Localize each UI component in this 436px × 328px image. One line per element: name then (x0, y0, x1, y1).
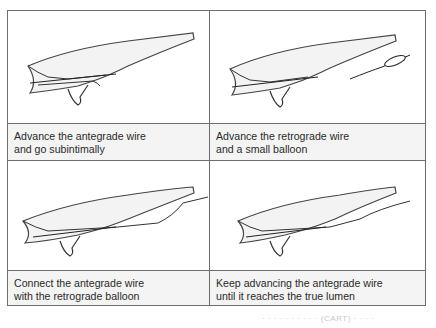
caption-line: Keep advancing the antegrade wire (216, 277, 425, 290)
caption-line: until it reaches the true lumen (216, 290, 425, 303)
panel-3-illustration (8, 161, 210, 270)
figure-grid: Advance the antegrade wire and go subint… (7, 10, 426, 306)
panel-2-illustration (210, 11, 425, 123)
vessel-illustration-icon (210, 11, 427, 123)
panel-4-illustration (210, 161, 425, 270)
vessel-illustration-icon (210, 161, 427, 270)
caption-line: Advance the antegrade wire (14, 130, 209, 143)
caption-line: Connect the antegrade wire (14, 277, 209, 290)
panel-2-caption: Advance the retrograde wire and a small … (210, 123, 425, 161)
caption-line: and go subintimally (14, 143, 209, 156)
caption-line: Advance the retrograde wire (216, 130, 425, 143)
panel-1-caption: Advance the antegrade wire and go subint… (8, 123, 210, 161)
vessel-illustration-icon (8, 11, 210, 123)
panel-3-caption: Connect the antegrade wire with the retr… (8, 270, 210, 305)
caption-line: with the retrograde balloon (14, 290, 209, 303)
panel-1-illustration (8, 11, 210, 123)
caption-line: and a small balloon (216, 143, 425, 156)
panel-4-caption: Keep advancing the antegrade wire until … (210, 270, 425, 305)
bleed-through-text: · · · · · · · · · · (CART) · · · · (262, 314, 374, 323)
vessel-illustration-icon (8, 161, 210, 270)
